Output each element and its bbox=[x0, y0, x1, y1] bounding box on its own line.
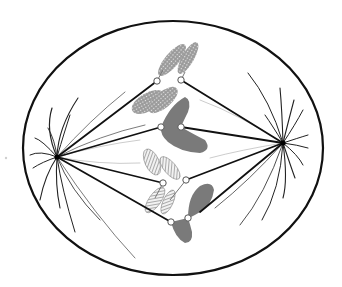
chromosomes bbox=[128, 39, 214, 243]
stray-dot bbox=[5, 157, 7, 159]
astral-rays-right bbox=[200, 73, 308, 225]
right-pole-centriole bbox=[280, 140, 285, 145]
dark-chromosome-lower bbox=[171, 184, 214, 243]
diagram-stage: cell in metaphase of meiosis/mitosis wit… bbox=[0, 0, 342, 287]
left-pole-centriole bbox=[54, 154, 59, 159]
cell-division-diagram bbox=[0, 0, 342, 287]
